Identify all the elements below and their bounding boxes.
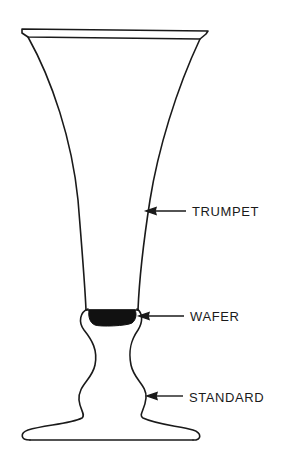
trumpet-right-outline — [138, 39, 200, 310]
trumpet-left-outline — [28, 37, 86, 310]
standard-left-outline — [22, 309, 96, 440]
arrowhead-icon — [147, 393, 157, 400]
vessel-diagram: TRUMPET WAFER STANDARD — [0, 0, 282, 469]
label-standard: STANDARD — [189, 391, 264, 404]
trumpet-arrow — [146, 208, 186, 215]
wafer-shape — [89, 310, 136, 326]
label-wafer: WAFER — [190, 310, 239, 323]
wafer-arrow — [139, 313, 184, 320]
standard-arrow — [147, 393, 183, 400]
rim-outline — [22, 29, 208, 39]
standard-right-outline — [130, 309, 200, 440]
label-trumpet: TRUMPET — [192, 205, 259, 218]
